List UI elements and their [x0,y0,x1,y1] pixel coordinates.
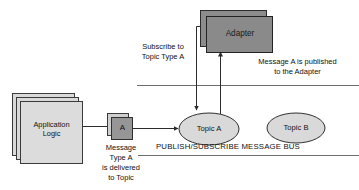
adapter-card-front [207,17,273,53]
message-a-card-front [112,118,133,140]
edge-adapter-subscribe [197,27,201,111]
topic-b-ellipse [267,113,325,143]
pubsub-diagram: Application Logic A Adapter Topic A Topi… [0,0,359,190]
topic-a-ellipse [179,113,239,145]
diagram-canvas [0,0,359,190]
application-logic-card-front [21,102,83,164]
